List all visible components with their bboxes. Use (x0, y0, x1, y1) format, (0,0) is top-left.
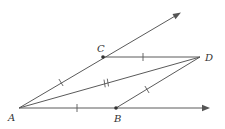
label-d: D (204, 52, 213, 63)
label-c: C (97, 43, 105, 54)
segment-ad (19, 57, 200, 108)
point-b (114, 106, 118, 110)
label-a: A (7, 112, 15, 123)
point-c (101, 55, 105, 59)
label-b: B (113, 113, 121, 124)
double-tick-mark-ad-1 (104, 80, 105, 88)
rhombus-construction-diagram: A B C D (0, 0, 225, 129)
ray-ac (19, 13, 181, 109)
arrowhead-icon (202, 105, 210, 111)
arrowhead-icon (173, 13, 182, 20)
double-tick-mark-ad-2 (107, 79, 108, 87)
segment-bd (116, 57, 200, 108)
